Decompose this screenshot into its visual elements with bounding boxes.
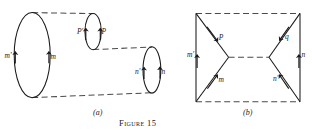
panel-a-ellipse-left: [14, 13, 50, 98]
panel-b-diag-top-left: [196, 13, 229, 57]
panel-label-b: (b): [243, 108, 252, 117]
label-m-b: m: [218, 76, 223, 84]
label-m-a: m: [51, 53, 56, 61]
panel-label-a: (a): [93, 108, 102, 117]
label-P-b: P: [219, 34, 224, 42]
panel-a-drawing: [14, 13, 161, 98]
panel-b-drawing: [196, 13, 300, 101]
vector-n-prime-b: [279, 75, 288, 89]
label-n-prime-b: n': [273, 75, 278, 83]
label-n-b: n: [302, 51, 306, 59]
panel-b-dashed-lines: [196, 13, 300, 101]
label-n-a: n: [161, 68, 165, 76]
label-n-prime-a: n': [135, 68, 140, 76]
panel-a-ellipse-right: [143, 47, 161, 93]
panel-a-ellipse-middle: [85, 14, 101, 50]
label-P-prime-a: P': [77, 28, 83, 36]
figure-caption: Figure 15: [119, 118, 156, 128]
vector-m-b: [207, 75, 217, 89]
vector-P-b: [207, 27, 218, 41]
label-q-b: q: [285, 33, 289, 41]
label-P-a: P: [102, 28, 107, 36]
figure-15: m' m P' P n' n m' P q n m n' (a) (b) Fig…: [0, 0, 312, 130]
label-m-prime-b: m': [187, 51, 194, 59]
label-m-prime-a: m': [5, 52, 12, 60]
figure-drawing: [0, 0, 312, 130]
